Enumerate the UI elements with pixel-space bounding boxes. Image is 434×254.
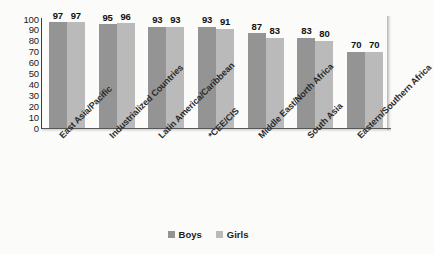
y-axis-tick-label: 80 [1,36,39,46]
chart-legend: BoysGirls [0,230,416,240]
legend-label: Boys [179,230,202,240]
bar-boys [347,52,365,128]
bar-boys [49,22,67,128]
y-axis-tick-label: 100 [1,15,39,25]
y-axis-tick-label: 60 [1,58,39,68]
bar-value-label: 80 [312,29,336,39]
bar-value-label: 70 [362,40,386,50]
legend-item: Girls [216,230,249,240]
bar-boys [248,33,266,128]
bar-value-label: 91 [213,17,237,27]
bar-value-label: 83 [263,26,287,36]
bar-value-label: 96 [114,12,138,22]
y-axis-tick-label: 0 [1,124,39,134]
y-axis-tick-label: 40 [1,80,39,90]
legend-item: Boys [168,230,202,240]
bar-boys [99,24,117,128]
y-axis-tick-label: 10 [1,113,39,123]
y-axis-tick-label: 30 [1,91,39,101]
legend-swatch-icon [216,231,223,238]
bar-value-label: 97 [64,11,88,21]
y-axis-tick-labels: 1009080706050403020100 [0,0,39,254]
y-axis-tick-label: 90 [1,25,39,35]
y-axis-tick-label: 20 [1,102,39,112]
y-axis-tick-label: 50 [1,69,39,79]
bar-value-label: 93 [163,15,187,25]
y-axis-tick-label: 70 [1,47,39,57]
legend-label: Girls [227,230,249,240]
legend-swatch-icon [168,231,175,238]
